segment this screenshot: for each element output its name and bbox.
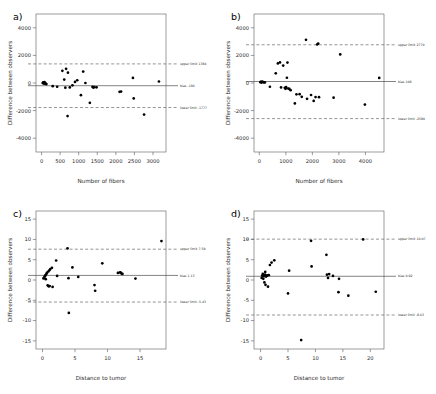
y-tick-label: 0	[246, 277, 249, 283]
reference-line-annotation: bias -196	[180, 84, 195, 88]
data-point	[44, 278, 47, 281]
data-point	[317, 42, 320, 45]
y-tick-label: 15	[24, 216, 31, 222]
data-point	[339, 53, 342, 56]
data-point	[280, 86, 283, 89]
x-tick-label: 1500	[91, 158, 104, 164]
data-point	[300, 339, 303, 342]
reference-line-annotation: lower limit -8.63	[398, 313, 424, 317]
data-point	[71, 266, 74, 269]
data-point	[132, 77, 135, 80]
x-tick-label: 500	[55, 158, 65, 164]
y-tick-label: -2000	[16, 108, 31, 114]
x-tick-label: 2000	[306, 158, 319, 164]
y-axis-title: Difference between observers	[225, 238, 231, 322]
y-tick-label: -2000	[234, 108, 249, 114]
data-point	[288, 269, 291, 272]
data-point	[264, 81, 267, 84]
data-point	[51, 286, 54, 289]
reference-line-annotation: upper limit 2770	[398, 43, 425, 47]
scatter-points	[259, 38, 381, 105]
data-point	[312, 100, 315, 103]
data-point	[48, 285, 51, 288]
data-point	[362, 238, 365, 241]
y-tick-label: -5	[244, 297, 249, 303]
data-point	[364, 103, 367, 106]
data-point	[274, 72, 277, 75]
data-point	[66, 115, 69, 118]
scatter-points	[260, 238, 377, 341]
data-point	[279, 61, 282, 64]
data-point	[262, 277, 265, 280]
data-point	[67, 277, 70, 280]
y-tick-label: 15	[242, 216, 249, 222]
reference-line-annotation: bias 1.13	[180, 274, 195, 278]
y-tick-label: -15	[23, 338, 31, 344]
data-point	[65, 67, 68, 70]
data-point	[56, 275, 59, 278]
reference-line-annotation: bias 0.92	[398, 274, 413, 278]
data-point	[286, 76, 289, 79]
x-tick-label: 5	[286, 355, 289, 361]
data-point	[374, 290, 377, 293]
y-tick-label: 0	[28, 80, 31, 86]
reference-line-annotation: lower limit -2580	[398, 117, 425, 121]
bland-altman-figure-grid: a)400020000-2000-40000500100015002000250…	[0, 0, 436, 394]
y-tick-label: -15	[241, 338, 249, 344]
y-tick-label: 2000	[236, 52, 249, 58]
x-axis-title: Number of fibers	[295, 178, 342, 184]
plot-frame	[36, 211, 166, 349]
data-point	[101, 262, 104, 265]
data-point	[269, 85, 272, 88]
data-point	[294, 102, 297, 105]
data-point	[264, 284, 267, 287]
y-tick-label: -10	[23, 317, 31, 323]
data-point	[325, 253, 328, 256]
data-point	[332, 96, 335, 99]
y-tick-label: 0	[246, 80, 249, 86]
data-point	[71, 84, 74, 87]
y-tick-label: 2000	[18, 52, 31, 58]
x-tick-label: 20	[367, 355, 374, 361]
data-point	[132, 97, 135, 100]
x-tick-label: 4000	[359, 158, 372, 164]
data-point	[267, 274, 270, 277]
plot-frame	[36, 14, 166, 152]
y-tick-label: 5	[28, 257, 31, 263]
x-tick-label: 1000	[279, 158, 292, 164]
reference-line-annotation: upper limit 10.07	[398, 237, 426, 241]
plot-frame	[254, 211, 384, 349]
y-tick-label: -4000	[16, 135, 31, 141]
x-axis-title: Number of fibers	[77, 178, 124, 184]
y-axis-title: Difference between observers	[7, 238, 13, 322]
data-point	[327, 277, 330, 280]
x-axis-title: Distance to tumor	[294, 375, 345, 381]
data-point	[300, 95, 303, 98]
x-tick-label: 2500	[128, 158, 141, 164]
reference-line-annotation: lower limit -5.43	[180, 300, 206, 304]
data-point	[94, 289, 97, 292]
x-tick-label: 0	[259, 355, 262, 361]
plot-frame	[254, 14, 384, 152]
reference-line-annotation: bias 108	[398, 80, 412, 84]
data-point	[66, 247, 69, 250]
panel-a: a)400020000-2000-40000500100015002000250…	[0, 0, 218, 197]
data-point	[267, 285, 270, 288]
data-point	[270, 261, 273, 264]
data-point	[67, 312, 70, 315]
panel-letter: c)	[13, 208, 22, 219]
data-point	[160, 240, 163, 243]
y-tick-label: 10	[24, 236, 31, 242]
data-point	[337, 291, 340, 294]
data-point	[55, 259, 58, 262]
x-tick-label: 15	[137, 355, 144, 361]
data-point	[56, 85, 59, 88]
data-point	[282, 64, 285, 67]
data-point	[287, 292, 290, 295]
data-point	[45, 83, 48, 86]
y-tick-label: 0	[28, 277, 31, 283]
x-tick-label: 0	[258, 158, 261, 164]
x-tick-label: 2000	[109, 158, 122, 164]
data-point	[286, 61, 289, 64]
x-tick-label: 15	[340, 355, 347, 361]
